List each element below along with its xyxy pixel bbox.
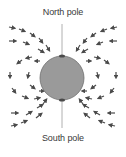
north-pole-cap (59, 54, 65, 57)
south-pole-cap (59, 98, 65, 101)
planet-sphere (40, 56, 84, 100)
south-pole-label: South pole (0, 133, 126, 143)
